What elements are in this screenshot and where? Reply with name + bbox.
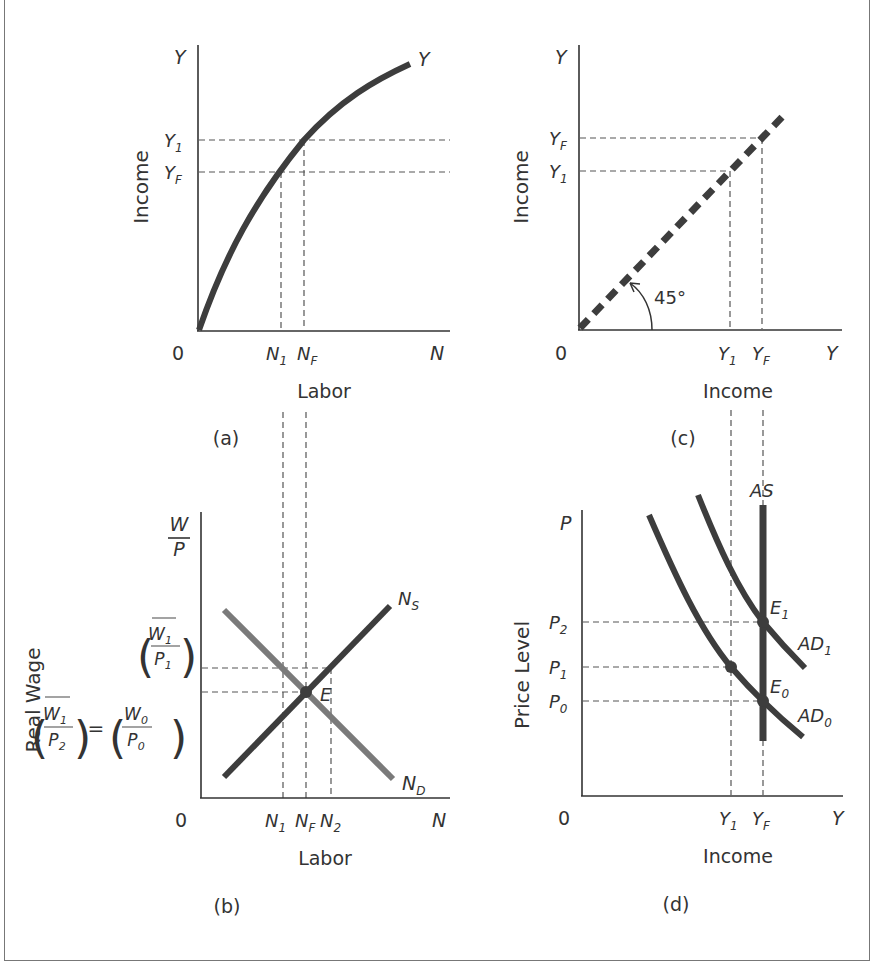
- panel-a-y-title: Income: [129, 150, 153, 224]
- panel-c-y-symbol: Y: [555, 46, 568, 68]
- production-curve-label: Y: [418, 48, 431, 70]
- panel-b-tick-w1-p2-equals-w0-p0: ( W1 P2 ) = ( W0 P0 ): [31, 697, 187, 763]
- panel-d-x-title: Income: [703, 845, 773, 867]
- panel-b: E NS ND W P ( W1 P1 ) ( W1 P2 ) = ( W0 P…: [21, 512, 450, 917]
- panel-c-tick-yf-x: YF: [752, 343, 771, 368]
- panel-c-tick-yf: YF: [549, 128, 568, 153]
- panel-d: AS E1 E0 AD1 AD0 P P2 P1 P0 Price Level …: [510, 480, 845, 915]
- panel-b-y-title: Real Wage: [21, 647, 45, 752]
- svg-text:P2: P2: [48, 730, 65, 753]
- panel-b-origin: 0: [175, 809, 187, 831]
- panel-b-y-symbol-den: P: [173, 538, 185, 560]
- e1-label: E1: [770, 597, 789, 622]
- equilibrium-point-e: [300, 686, 312, 698]
- as-label: AS: [749, 480, 774, 501]
- panel-d-origin: 0: [558, 807, 570, 829]
- panel-d-y-title: Price Level: [510, 621, 534, 729]
- panel-b-tick-n2: N2: [320, 810, 341, 835]
- angle-label: 45°: [654, 287, 686, 308]
- panel-d-x-symbol: Y: [832, 807, 845, 829]
- panel-a-tick-yf: YF: [164, 162, 183, 187]
- equilibrium-point-e0: [757, 695, 769, 707]
- panel-b-y-symbol-num: W: [170, 513, 190, 535]
- panel-c: 45° Y YF Y1 Income 0 Y1 YF Y Income (c): [509, 45, 842, 449]
- panel-d-tick-p1: P1: [549, 657, 568, 682]
- ad0-label: AD0: [797, 705, 832, 730]
- panel-c-caption: (c): [670, 427, 695, 449]
- ad0-curve: [649, 515, 803, 737]
- panel-c-tick-y1: Y1: [549, 161, 568, 186]
- panel-a-caption: (a): [213, 427, 239, 449]
- panel-b-x-symbol: N: [432, 809, 446, 831]
- panel-d-tick-p2: P2: [549, 612, 568, 637]
- demand-label: ND: [402, 772, 425, 798]
- four-panel-macro-diagram: Y Y Y1 YF Income 0 N1 NF N Labor (a) 45°…: [0, 0, 875, 966]
- panel-a-x-title: Labor: [297, 380, 351, 402]
- panel-a-tick-n1: N1: [266, 343, 287, 368]
- panel-b-caption: (b): [214, 895, 241, 917]
- panel-d-caption: (d): [663, 893, 690, 915]
- panel-a-tick-y1: Y1: [164, 130, 183, 155]
- panel-a-x-symbol: N: [430, 342, 444, 364]
- panel-c-x-title: Income: [703, 380, 773, 402]
- panel-c-tick-y1-x: Y1: [718, 343, 737, 368]
- panel-a: Y Y Y1 YF Income 0 N1 NF N Labor (a): [129, 45, 450, 449]
- svg-text:W0: W0: [124, 704, 148, 727]
- point-y1-p1: [725, 661, 737, 673]
- panel-a-origin: 0: [172, 342, 184, 364]
- equilibrium-label: E: [320, 684, 332, 705]
- panel-d-tick-p0: P0: [549, 691, 568, 716]
- panel-a-tick-nf: NF: [297, 343, 318, 368]
- svg-text:P1: P1: [154, 649, 171, 672]
- svg-text:=: =: [88, 716, 105, 740]
- panel-a-y-symbol: Y: [174, 46, 187, 68]
- ad1-label: AD1: [797, 633, 832, 658]
- panel-d-tick-yf: YF: [752, 808, 771, 833]
- panel-d-tick-y1: Y1: [719, 808, 738, 833]
- e0-label: E0: [770, 676, 789, 701]
- svg-text:W1: W1: [43, 704, 67, 727]
- panel-b-tick-nf: NF: [295, 810, 316, 835]
- equilibrium-point-e1: [757, 616, 769, 628]
- panel-b-tick-n1: N1: [265, 810, 286, 835]
- svg-text:P0: P0: [127, 730, 144, 753]
- paren-right: ): [180, 631, 197, 682]
- panel-b-x-title: Labor: [298, 847, 352, 869]
- svg-text:W1: W1: [148, 624, 172, 647]
- supply-label: NS: [398, 588, 419, 613]
- panel-d-y-symbol: P: [560, 512, 572, 534]
- panel-c-x-symbol: Y: [826, 342, 839, 364]
- panel-c-y-title: Income: [509, 150, 533, 224]
- panel-b-tick-w1-p1: ( W1 P1 ): [137, 618, 197, 682]
- panel-c-origin: 0: [555, 342, 567, 364]
- svg-text:): ): [170, 712, 187, 763]
